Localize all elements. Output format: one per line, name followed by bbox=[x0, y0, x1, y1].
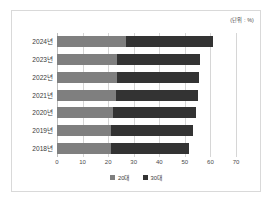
y-axis-label-2019년: 2019년 bbox=[32, 125, 53, 136]
legend-swatch-icon bbox=[143, 175, 148, 180]
bar-segment-30대[interactable] bbox=[116, 90, 198, 101]
x-tick-label-10: 10 bbox=[79, 159, 86, 165]
bar-segment-30대[interactable] bbox=[111, 125, 193, 136]
y-axis-label-2023년: 2023년 bbox=[32, 54, 53, 65]
bar-row bbox=[57, 72, 236, 83]
legend-item-20대[interactable]: 20대 bbox=[110, 173, 129, 182]
unit-annotation: (단위 : %) bbox=[230, 16, 254, 24]
stacked-bar[interactable] bbox=[57, 36, 213, 47]
bar-segment-20대[interactable] bbox=[57, 107, 113, 118]
y-axis-label-2018년: 2018년 bbox=[32, 143, 53, 154]
y-axis-label-2024년: 2024년 bbox=[32, 36, 53, 47]
bar-row bbox=[57, 90, 236, 101]
bar-row bbox=[57, 54, 236, 65]
x-tick-label-50: 50 bbox=[182, 159, 189, 165]
bar-segment-20대[interactable] bbox=[57, 54, 117, 65]
bar-segment-20대[interactable] bbox=[57, 72, 117, 83]
bar-segment-20대[interactable] bbox=[57, 90, 116, 101]
bar-row bbox=[57, 125, 236, 136]
stacked-bar[interactable] bbox=[57, 72, 199, 83]
bar-segment-30대[interactable] bbox=[126, 36, 213, 47]
chart-container: (단위 : %) 2024년2023년2022년2021년2020년2019년2… bbox=[11, 10, 261, 192]
stacked-bar[interactable] bbox=[57, 143, 189, 154]
bar-row bbox=[57, 107, 236, 118]
x-tick-label-30: 30 bbox=[130, 159, 137, 165]
x-axis-tick-labels: 010203040506070 bbox=[57, 159, 236, 169]
bar-segment-20대[interactable] bbox=[57, 36, 126, 47]
bars-layer bbox=[57, 33, 236, 157]
y-axis-label-2020년: 2020년 bbox=[32, 107, 53, 118]
x-tick-label-70: 70 bbox=[233, 159, 240, 165]
stacked-bar[interactable] bbox=[57, 90, 198, 101]
bar-segment-30대[interactable] bbox=[113, 107, 196, 118]
bar-row bbox=[57, 143, 236, 154]
bar-segment-30대[interactable] bbox=[117, 54, 200, 65]
bar-segment-20대[interactable] bbox=[57, 143, 111, 154]
bar-segment-20대[interactable] bbox=[57, 125, 111, 136]
y-axis-label-2021년: 2021년 bbox=[32, 90, 53, 101]
legend-swatch-icon bbox=[110, 175, 115, 180]
x-tick-label-0: 0 bbox=[55, 159, 58, 165]
x-tick-label-40: 40 bbox=[156, 159, 163, 165]
stacked-bar[interactable] bbox=[57, 107, 196, 118]
x-tick-label-60: 60 bbox=[207, 159, 214, 165]
legend-label: 30대 bbox=[151, 173, 162, 182]
legend-label: 20대 bbox=[118, 173, 129, 182]
stacked-bar[interactable] bbox=[57, 125, 193, 136]
bar-row bbox=[57, 36, 236, 47]
bar-segment-30대[interactable] bbox=[111, 143, 189, 154]
legend-item-30대[interactable]: 30대 bbox=[143, 173, 162, 182]
y-axis-label-2022년: 2022년 bbox=[32, 72, 53, 83]
plot-area bbox=[57, 33, 236, 157]
chart-legend: 20대30대 bbox=[12, 173, 260, 182]
x-tick-label-20: 20 bbox=[105, 159, 112, 165]
y-axis-category-labels: 2024년2023년2022년2021년2020년2019년2018년 bbox=[12, 33, 53, 157]
stacked-bar[interactable] bbox=[57, 54, 200, 65]
gridline-70 bbox=[236, 33, 237, 157]
bar-segment-30대[interactable] bbox=[117, 72, 199, 83]
